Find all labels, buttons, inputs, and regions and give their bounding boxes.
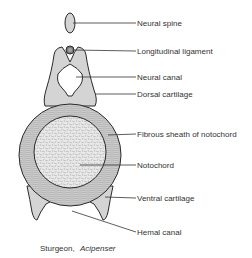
ligament-core	[68, 48, 72, 52]
caption: Sturgeon, Acipenser	[40, 244, 116, 253]
vertebra-diagram: Neural spine Longitudinal ligament Neura…	[0, 0, 252, 258]
label-neural-spine: Neural spine	[137, 19, 182, 28]
caption-genus: Acipenser	[79, 244, 116, 253]
label-neural-canal: Neural canal	[137, 73, 182, 82]
label-notochord: Notochord	[137, 161, 174, 170]
label-dorsal-cartilage: Dorsal cartilage	[137, 90, 193, 99]
notochord-shape	[34, 116, 106, 188]
label-longitudinal-ligament: Longitudinal ligament	[137, 47, 213, 56]
caption-common-name: Sturgeon,	[40, 244, 75, 253]
label-fibrous-sheath: Fibrous sheath of notochord	[137, 130, 237, 139]
label-hemal-canal: Hemal canal	[137, 228, 182, 237]
label-ventral-cartilage: Ventral cartilage	[137, 194, 195, 203]
